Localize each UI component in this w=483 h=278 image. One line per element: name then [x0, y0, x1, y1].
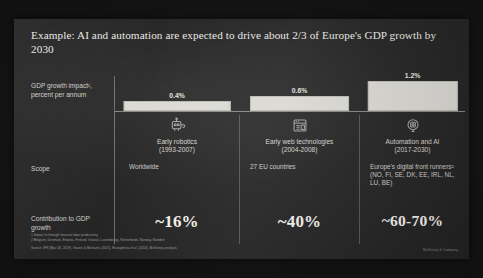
- column-label-line2: (2004-2008): [240, 146, 359, 154]
- contribution-automation-ai: ~60-70%: [360, 212, 465, 230]
- chart-baseline: [115, 111, 465, 112]
- bar-value-label: 1.2%: [405, 72, 421, 79]
- column-label-early-robotics: Early robotics (1993-2007): [115, 138, 239, 155]
- robot-icon: [167, 116, 187, 135]
- slide-title: Example: AI and automation are expected …: [31, 28, 449, 56]
- column-label-automation-ai: Automation and AI (2017-2030): [360, 138, 465, 155]
- bar-wrapper: 0.4%: [115, 76, 239, 111]
- browser-window-icon: [290, 116, 310, 135]
- footnote-2: 2 Belgium, Denmark, Estonia, Finland, Ir…: [31, 238, 451, 243]
- slide-photograph: Example: AI and automation are expected …: [0, 0, 483, 278]
- column-label-line1: Early web technologies: [240, 138, 359, 146]
- contribution-early-robotics: ~16%: [115, 212, 239, 232]
- contribution-early-web: ~40%: [240, 212, 359, 232]
- column-label-line2: (1993-2007): [115, 146, 239, 154]
- bar-automation-ai: [367, 81, 457, 111]
- column-label-line2: (2017-2030): [360, 146, 465, 154]
- source-line: Source: IFR (Mar 26, 2019), Graetz & Mic…: [31, 246, 361, 251]
- brain-chip-icon: [403, 116, 423, 135]
- scope-early-robotics: Worldwide: [129, 163, 239, 171]
- footnotes: 1 Impact at through forecast labor produ…: [31, 233, 451, 242]
- bar-early-robotics: [124, 101, 231, 111]
- bar-wrapper: 1.2%: [360, 76, 465, 111]
- row-label-scope: Scope: [31, 165, 111, 174]
- row-label-gdp-growth: GDP growth impact¹, percent per annum: [31, 82, 111, 99]
- bar-early-web: [250, 96, 350, 111]
- column-label-line1: Automation and AI: [360, 138, 465, 146]
- corner-brand-mark: McKinsey & Company: [423, 248, 458, 252]
- bar-wrapper: 0.6%: [240, 76, 359, 111]
- presentation-slide: Example: AI and automation are expected …: [14, 19, 469, 259]
- scope-early-web: 27 EU countries: [250, 163, 355, 171]
- bar-value-label: 0.4%: [169, 92, 185, 99]
- column-label-early-web: Early web technologies (2004-2008): [240, 138, 359, 155]
- column-label-line1: Early robotics: [115, 138, 239, 146]
- scope-automation-ai: Europe's digital front runners² (NO, FI,…: [370, 163, 461, 188]
- bar-value-label: 0.6%: [292, 87, 308, 94]
- row-label-contribution: Contribution to GDP growth: [31, 215, 111, 232]
